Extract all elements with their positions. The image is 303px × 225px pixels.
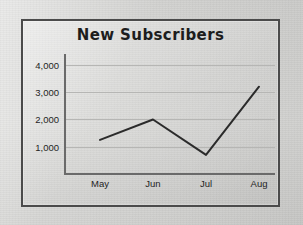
y-axis-tick-labels: 1,0002,0003,0004,000 (19, 54, 59, 174)
x-axis-tick-labels: MayJunJulAug (64, 178, 275, 192)
x-tick-label-aug: Aug (236, 178, 282, 189)
y-tick-label-1000: 1,000 (19, 141, 59, 152)
chart-frame: New Subscribers 1,0002,0003,0004,000 May… (21, 19, 280, 207)
y-tick-label-4000: 4,000 (19, 59, 59, 70)
x-tick-label-jun: Jun (130, 178, 176, 189)
series-line-new-subscribers (64, 54, 275, 174)
y-tick-label-3000: 3,000 (19, 87, 59, 98)
plot-area (64, 54, 275, 174)
y-tick-label-2000: 2,000 (19, 114, 59, 125)
x-tick-label-jul: Jul (183, 178, 229, 189)
chart-title: New Subscribers (23, 26, 278, 44)
chart-page: New Subscribers 1,0002,0003,0004,000 May… (0, 0, 303, 225)
x-tick-label-may: May (77, 178, 123, 189)
